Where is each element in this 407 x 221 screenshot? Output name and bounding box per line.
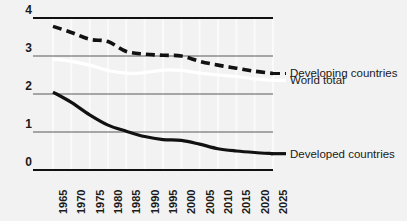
x-axis-tick-label: 2000 xyxy=(186,190,197,214)
x-axis-tick-label: 1970 xyxy=(76,190,87,214)
y-axis-tick-label: 4 xyxy=(12,4,32,16)
growth-rate-line-chart: 43210 1965197019751980198519901995200020… xyxy=(0,0,407,221)
chart-plot-area xyxy=(0,0,407,221)
y-axis-tick-label: 1 xyxy=(12,118,32,130)
x-axis-tick-label: 1965 xyxy=(58,190,69,214)
y-axis-tick-label: 0 xyxy=(12,156,32,168)
legend-item-developed-countries: Developed countries xyxy=(290,148,395,160)
x-axis-tick-label: 2005 xyxy=(205,190,216,214)
x-axis-tick-label: 1980 xyxy=(113,190,124,214)
x-axis-tick-label: 2020 xyxy=(260,190,271,214)
x-axis-tick-label: 1990 xyxy=(150,190,161,214)
x-axis-tick-label: 1975 xyxy=(95,190,106,214)
x-axis-tick-label: 1995 xyxy=(168,190,179,214)
y-axis-tick-label: 3 xyxy=(12,42,32,54)
y-axis-tick-label: 2 xyxy=(12,80,32,92)
x-axis-tick-label: 2025 xyxy=(278,190,289,214)
x-axis-tick-label: 2015 xyxy=(241,190,252,214)
x-axis-tick-label: 2010 xyxy=(223,190,234,214)
legend-item-world-total: World total xyxy=(290,74,345,86)
x-axis-tick-label: 1985 xyxy=(131,190,142,214)
